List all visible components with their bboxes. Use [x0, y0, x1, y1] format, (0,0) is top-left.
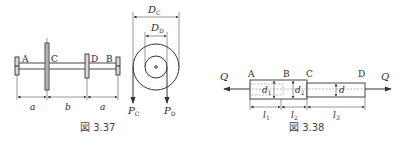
dim-label-a-right: a: [100, 102, 105, 112]
label-l2: l2: [291, 110, 298, 121]
figure-3-37-pulleys: DC DD PC PD: [127, 4, 179, 117]
label-d: D: [91, 54, 98, 64]
caption-3-37: 図 3.37: [80, 122, 115, 133]
figure-3-37-shaft: A C D B a b a: [15, 38, 120, 112]
label-pc: PC: [127, 105, 140, 117]
label-q-right: Q: [381, 71, 389, 82]
shaft: [18, 63, 117, 69]
label-c: C: [51, 54, 58, 64]
label-dd: DD: [150, 22, 164, 34]
label-c: C: [306, 69, 313, 79]
label-a: A: [21, 54, 29, 64]
label-b: B: [106, 54, 113, 64]
figure-3-38-bar: Q Q A B C D d1 d2 d l1 l2 l3: [220, 69, 391, 121]
label-dc: DC: [147, 4, 161, 16]
label-a: A: [247, 69, 255, 79]
label-d: d: [339, 85, 345, 95]
bearing-a: [15, 57, 19, 75]
label-l1: l1: [263, 110, 270, 121]
center-mark: [155, 66, 158, 69]
pulley-d-circle: [145, 56, 167, 78]
disc-d: [85, 54, 89, 78]
label-pd: PD: [163, 105, 176, 117]
bearing-b: [116, 57, 120, 75]
label-l3: l3: [333, 110, 340, 121]
figures-canvas: A C D B a b a DC DD PC PD 図 3.37: [0, 0, 408, 148]
caption-3-38: 図 3.38: [289, 122, 324, 133]
label-q-left: Q: [220, 71, 228, 82]
dim-label-b: b: [65, 102, 71, 112]
dim-label-a-left: a: [30, 102, 35, 112]
pulley-c-circle: [133, 44, 179, 90]
label-b: B: [283, 69, 290, 79]
label-d: D: [358, 69, 365, 79]
